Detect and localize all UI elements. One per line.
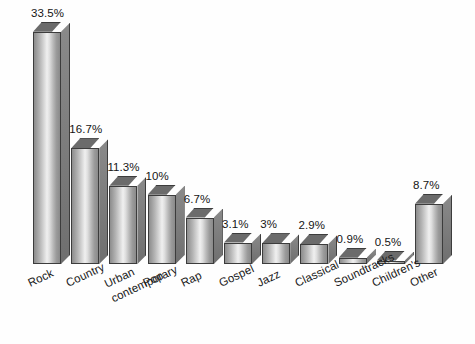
value-label-8: 2.9% — [298, 219, 325, 231]
bar-10 — [377, 252, 414, 264]
bar-front-face — [224, 243, 252, 264]
bar-side-face — [137, 177, 146, 264]
bar-front-face — [339, 258, 367, 264]
value-label-9: 0.9% — [337, 233, 364, 245]
bar-side-face — [405, 252, 414, 264]
bar-top-face — [415, 194, 443, 204]
bar-4 — [148, 186, 185, 264]
bar-top-face — [339, 248, 367, 258]
bar-side-face — [252, 234, 261, 264]
bar-front-face — [300, 244, 328, 264]
bar-front-face — [71, 148, 99, 264]
value-label-5: 6.7% — [184, 193, 211, 205]
bar-side-face — [443, 195, 452, 264]
bar-6 — [224, 234, 261, 264]
bar-9 — [339, 249, 376, 264]
bar-front-face — [377, 261, 405, 264]
bar-top-face — [262, 233, 290, 243]
value-label-2: 16.7% — [69, 123, 102, 135]
bar-top-face — [71, 138, 99, 148]
bar-1 — [33, 23, 70, 264]
bar-side-face — [290, 234, 299, 264]
bar-top-face — [377, 251, 405, 261]
bar-top-face — [109, 176, 137, 186]
bar-side-face — [99, 139, 108, 264]
value-label-4: 10% — [146, 170, 169, 182]
bar-3 — [109, 177, 146, 264]
bar-side-face — [61, 23, 70, 264]
bar-top-face — [300, 234, 328, 244]
plot-area: 33.5%16.7%11.3%10%6.7%3.1%3%2.9%0.9%0.5%… — [0, 0, 475, 344]
bar-front-face — [415, 204, 443, 264]
value-label-10: 0.5% — [375, 236, 402, 248]
bar-top-face — [33, 22, 61, 32]
value-label-7: 3% — [260, 218, 277, 230]
bar-top-face — [186, 208, 214, 218]
bar-top-face — [224, 233, 252, 243]
value-label-11: 8.7% — [413, 179, 440, 191]
bar-2 — [71, 139, 108, 264]
bar-front-face — [148, 195, 176, 264]
value-label-1: 33.5% — [31, 7, 64, 19]
bar-7 — [262, 234, 299, 264]
bar-side-face — [367, 249, 376, 264]
bar-top-face — [148, 185, 176, 195]
bar-chart: 33.5%16.7%11.3%10%6.7%3.1%3%2.9%0.9%0.5%… — [0, 0, 475, 344]
bar-front-face — [186, 218, 214, 264]
bar-11 — [415, 195, 452, 264]
bar-front-face — [33, 32, 61, 264]
bar-8 — [300, 235, 337, 264]
bar-5 — [186, 209, 223, 264]
value-label-6: 3.1% — [222, 218, 249, 230]
bar-front-face — [262, 243, 290, 264]
bar-front-face — [109, 186, 137, 264]
value-label-3: 11.3% — [107, 161, 139, 173]
